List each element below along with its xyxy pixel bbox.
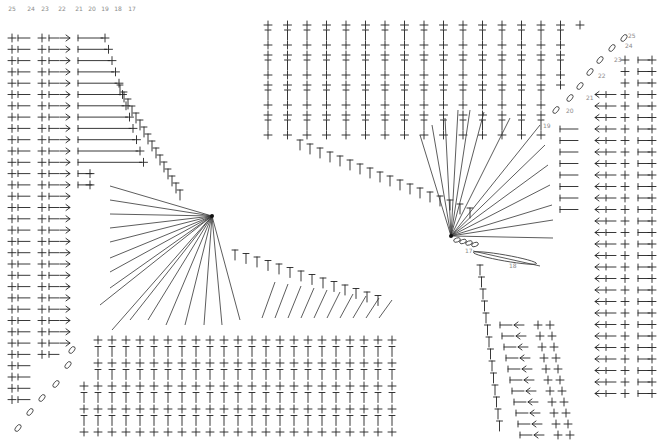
- svg-text:18: 18: [114, 5, 122, 12]
- svg-text:24: 24: [27, 5, 35, 12]
- svg-text:23: 23: [41, 5, 49, 12]
- svg-text:17: 17: [128, 5, 136, 12]
- crochet-chart: 252423222120191817 252423222120191817: [0, 0, 664, 445]
- svg-text:25: 25: [8, 5, 16, 12]
- svg-text:22: 22: [598, 72, 606, 79]
- svg-text:21: 21: [586, 94, 594, 101]
- svg-text:24: 24: [625, 42, 633, 49]
- stitch-count-labels: 252423222120191817: [14, 32, 636, 432]
- svg-text:19: 19: [543, 122, 551, 129]
- svg-text:17: 17: [465, 247, 473, 254]
- right-stitch-panel: [264, 21, 656, 439]
- svg-text:21: 21: [75, 5, 83, 12]
- svg-text:18: 18: [509, 262, 517, 269]
- svg-text:20: 20: [88, 5, 96, 12]
- svg-text:19: 19: [101, 5, 109, 12]
- row-number-labels: 252423222120191817: [8, 5, 136, 12]
- left-stitch-panel: [8, 34, 396, 436]
- svg-text:25: 25: [628, 32, 636, 39]
- svg-text:22: 22: [58, 5, 66, 12]
- svg-text:20: 20: [566, 107, 574, 114]
- svg-text:23: 23: [614, 56, 622, 63]
